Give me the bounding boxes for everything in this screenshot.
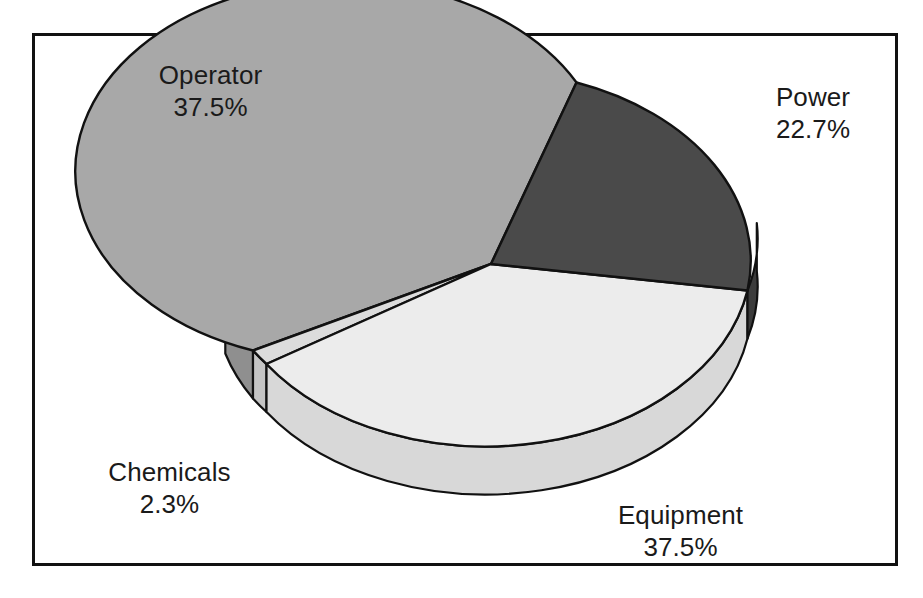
slice-label-operator: Operator 37.5% [108,60,313,123]
slice-label-equipment: Equipment 37.5% [553,500,808,563]
slice-label-equipment-name: Equipment [553,500,808,532]
slice-label-chemicals: Chemicals 2.3% [62,457,277,520]
slice-label-chemicals-name: Chemicals [62,457,277,489]
slice-label-operator-value: 37.5% [108,92,313,124]
slice-label-power-value: 22.7% [718,114,908,146]
slice-label-chemicals-value: 2.3% [62,489,277,521]
slice-label-equipment-value: 37.5% [553,532,808,564]
slice-label-operator-name: Operator [108,60,313,92]
slice-label-power: Power 22.7% [718,82,908,145]
slice-label-power-name: Power [718,82,908,114]
pie-chart-figure: Operator 37.5% Power 22.7% Chemicals 2.3… [0,0,923,598]
